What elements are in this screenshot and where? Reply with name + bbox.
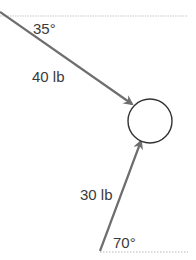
force-arrow-40lb [0, 12, 132, 104]
magnitude-label-30lb: 30 lb [80, 186, 113, 203]
object-circle [128, 99, 172, 143]
magnitude-label-40lb: 40 lb [32, 68, 65, 85]
force-diagram: 35° 40 lb 30 lb 70° [0, 0, 196, 260]
angle-label-35: 35° [33, 20, 56, 37]
angle-label-70: 70° [113, 234, 136, 251]
diagram-svg: 35° 40 lb 30 lb 70° [0, 0, 196, 260]
